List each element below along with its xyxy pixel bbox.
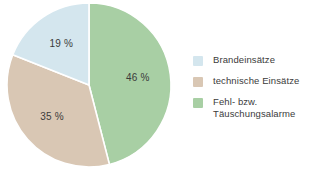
legend-item-label: Brandeinsätze	[213, 54, 275, 66]
pie-plot-area: 46 %35 %19 %	[0, 0, 182, 171]
legend-item-label: technische Einsätze	[213, 75, 299, 87]
pie-slice-label: 46 %	[126, 72, 150, 83]
pie-svg: 46 %35 %19 %	[0, 0, 182, 171]
legend-swatch-icon	[193, 56, 203, 66]
legend-swatch-icon	[193, 98, 203, 108]
legend-swatch-icon	[193, 77, 203, 87]
pie-slice-label: 19 %	[50, 38, 74, 49]
legend-item: Fehl- bzw. Täuschungsalarme	[193, 96, 318, 120]
legend-item: technische Einsätze	[193, 75, 318, 87]
pie-slice-group	[7, 3, 171, 167]
legend-item-label: Fehl- bzw. Täuschungsalarme	[213, 96, 295, 120]
pie-chart-figure: 46 %35 %19 % Brandeinsätze technische Ei…	[0, 0, 318, 171]
pie-slice-label: 35 %	[40, 111, 64, 122]
chart-legend: Brandeinsätze technische Einsätze Fehl- …	[193, 54, 318, 129]
legend-item: Brandeinsätze	[193, 54, 318, 66]
